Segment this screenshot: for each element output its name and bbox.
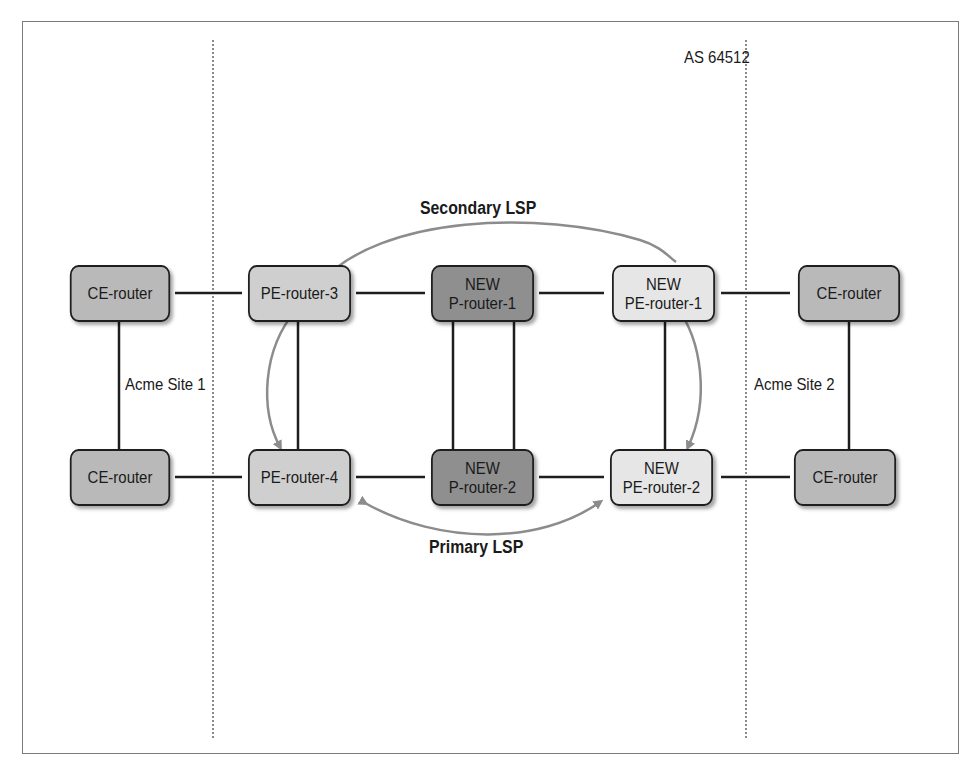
node-new-tag: NEW <box>465 459 500 478</box>
ce-router-bottom-left: CE-router <box>70 449 170 506</box>
as-number-label: AS 64512 <box>684 48 750 68</box>
primary-lsp-label: Primary LSP <box>429 537 523 558</box>
new-p-router-2: NEW P-router-2 <box>431 449 534 506</box>
new-p-router-1: NEW P-router-1 <box>431 265 534 322</box>
pe-router-3: PE-router-3 <box>248 265 351 322</box>
ce-router-bottom-right: CE-router <box>794 449 896 506</box>
secondary-lsp-label: Secondary LSP <box>420 198 536 219</box>
ce-router-top-right: CE-router <box>798 265 900 322</box>
node-label: PE-router-4 <box>261 468 338 487</box>
node-label: CE-router <box>813 468 878 487</box>
new-pe-router-2: NEW PE-router-2 <box>610 449 713 506</box>
node-new-tag: NEW <box>644 459 679 478</box>
new-pe-router-1: NEW PE-router-1 <box>612 265 715 322</box>
node-label: PE-router-2 <box>623 478 700 497</box>
site-1-label: Acme Site 1 <box>125 375 206 395</box>
secondary-lsp-pe1-pe2 <box>676 306 701 447</box>
pe-router-4: PE-router-4 <box>248 449 351 506</box>
site-2-label: Acme Site 2 <box>754 375 835 395</box>
node-label: CE-router <box>88 468 153 487</box>
secondary-lsp-pe3-pe4 <box>267 310 296 447</box>
node-new-tag: NEW <box>465 275 500 294</box>
node-label: P-router-1 <box>449 294 516 313</box>
primary-lsp-arc <box>365 502 600 534</box>
node-label: PE-router-1 <box>625 294 702 313</box>
node-label: CE-router <box>88 284 153 303</box>
node-label: PE-router-3 <box>261 284 338 303</box>
ce-router-top-left: CE-router <box>70 265 170 322</box>
node-label: CE-router <box>817 284 882 303</box>
node-label: P-router-2 <box>449 478 516 497</box>
node-new-tag: NEW <box>646 275 681 294</box>
